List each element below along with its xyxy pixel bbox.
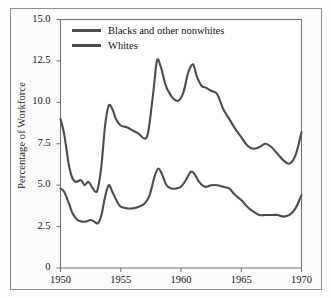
legend-item-blacks-and-other-nonwhites: Blacks and other nonwhites xyxy=(72,23,224,38)
legend-label-series-1: Whites xyxy=(108,39,138,52)
y-tick-label: 5.0 xyxy=(17,178,51,189)
x-tick-label: 1950 xyxy=(39,274,83,285)
figure-container: Percentage of Workforce 02.55.07.510.012… xyxy=(0,0,331,298)
y-tick-label: 15.0 xyxy=(17,13,51,24)
y-tick-label: 2.5 xyxy=(17,220,51,231)
legend-label-series-0: Blacks and other nonwhites xyxy=(108,24,224,37)
chart-legend: Blacks and other nonwhites Whites xyxy=(72,23,224,53)
y-tick-label: 7.5 xyxy=(17,137,51,148)
y-tick-label: 10.0 xyxy=(17,95,51,106)
x-tick-label: 1965 xyxy=(219,274,263,285)
y-tick-label: 12.5 xyxy=(17,54,51,65)
x-tick-label: 1960 xyxy=(159,274,203,285)
x-axis-ticks xyxy=(61,268,302,272)
y-tick-label: 0 xyxy=(17,261,51,272)
y-axis-ticks xyxy=(57,20,61,269)
legend-line-swatch-series-1 xyxy=(72,44,101,47)
legend-item-whites: Whites xyxy=(72,38,224,53)
x-tick-label: 1955 xyxy=(99,274,143,285)
x-tick-label: 1970 xyxy=(280,274,324,285)
legend-line-swatch-series-0 xyxy=(72,29,101,32)
y-axis-title: Percentage of Workforce xyxy=(16,51,27,221)
